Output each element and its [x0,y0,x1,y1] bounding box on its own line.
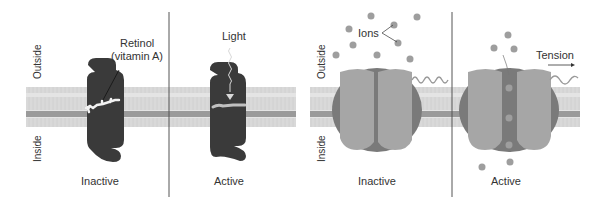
channel-subunit-left-inactive [340,69,374,150]
right-panel-mechanosensitive: Outside Inside Ions Tension Inactive Act… [298,0,598,209]
channel-subunit-right-inactive [378,69,412,150]
tension-arrowhead [571,63,575,67]
outside-label: Outside [317,45,327,79]
membrane-bilayer [26,87,296,127]
retinol-label: Retinol [120,38,154,49]
opsin-illustration [0,0,300,209]
channel-subunit-left-active [468,69,502,150]
light-label: Light [222,31,246,42]
outside-label: Outside [33,45,43,79]
channel-subunit-right-active [517,69,551,150]
caption-inactive-left: Inactive [81,176,119,187]
caption-active-left: Active [214,176,244,187]
caption-inactive-right: Inactive [358,176,396,187]
inside-label: Inside [33,135,43,162]
ion-channel-illustration [298,0,598,209]
tension-label: Tension [536,50,574,61]
inside-label: Inside [317,135,327,162]
caption-active-right: Active [491,176,521,187]
ions-label: Ions [358,28,379,39]
tension-spring-relaxed [412,77,448,83]
opsin-protein-inactive [87,58,124,162]
left-panel-light-gated: Outside Inside Retinol (vitamin A) Light… [0,0,300,209]
opsin-protein-active [210,62,246,161]
tension-wave [550,76,578,84]
vitamin-a-label: (vitamin A) [111,51,163,62]
